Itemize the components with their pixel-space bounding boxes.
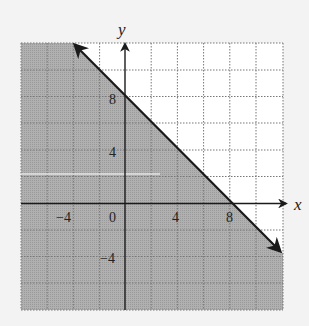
x-tick-label: 0 xyxy=(109,210,116,225)
y-tick-label: 4 xyxy=(109,145,116,160)
y-tick-label: 8 xyxy=(109,92,116,107)
x-tick-label: 8 xyxy=(226,210,233,225)
x-tick-label: 4 xyxy=(172,210,179,225)
x-tick-label: −4 xyxy=(56,210,71,225)
inequality-graph: x y −4 0 4 8 8 4 −4 xyxy=(0,0,309,326)
x-axis-label: x xyxy=(293,195,302,214)
y-axis-label: y xyxy=(116,20,126,39)
y-tick-label: −4 xyxy=(100,251,115,266)
graph-figure: x y −4 0 4 8 8 4 −4 xyxy=(0,0,309,326)
